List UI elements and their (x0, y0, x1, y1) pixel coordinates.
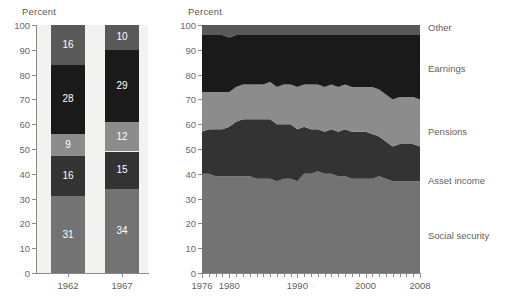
bar-segment-value: 10 (116, 32, 127, 42)
bar-y-tick-label: 100 (0, 20, 30, 31)
legend-item-asset-income[interactable]: Asset income (428, 175, 485, 186)
area-x-tick-label: 1990 (287, 280, 308, 291)
area-x-tick-mark (352, 274, 353, 277)
bar-segment-value: 15 (116, 165, 127, 175)
area-x-tick-mark (366, 274, 367, 278)
bar-y-tick-label: 60 (0, 119, 30, 130)
area-y-tick-label: 10 (160, 243, 196, 254)
bar-segment-value: 28 (62, 94, 73, 104)
area-y-tick-label: 90 (160, 44, 196, 55)
area-chart-y-axis-title: Percent (188, 6, 222, 17)
area-y-tick-label: 80 (160, 69, 196, 80)
area-x-tick-label: 2000 (355, 280, 376, 291)
area-x-tick-mark (284, 274, 285, 277)
bar-1967[interactable]: 3415122910 (105, 25, 139, 273)
bar-y-tick-label: 50 (0, 144, 30, 155)
area-x-tick-mark (263, 274, 264, 277)
area-y-tick-label: 30 (160, 193, 196, 204)
bar-chart-y-axis-title: Percent (22, 6, 56, 17)
chart-page: Percent 1009080706050403020100 311692816… (0, 0, 527, 307)
bar-plot-area: 3116928163415122910 (36, 25, 148, 273)
area-x-tick-mark (229, 274, 230, 278)
area-x-tick-mark (236, 274, 237, 277)
bar-segment-value: 16 (62, 171, 73, 181)
bar-x-tick-mark (68, 274, 69, 277)
area-x-tick-mark (257, 274, 258, 277)
bar-segment-other[interactable]: 10 (105, 25, 139, 50)
area-x-tick-mark (386, 274, 387, 277)
bar-chart-x-axis-line (36, 273, 149, 274)
area-x-tick-mark (311, 274, 312, 277)
bar-x-tick-label: 1962 (57, 280, 78, 291)
area-y-tick-label: 50 (160, 144, 196, 155)
area-x-tick-mark (270, 274, 271, 277)
bar-x-tick-label: 1967 (111, 280, 132, 291)
bar-y-tick-label: 20 (0, 218, 30, 229)
area-x-tick-label: 1976 (191, 280, 212, 291)
area-x-tick-mark (420, 274, 421, 278)
bar-x-tick-mark (122, 274, 123, 277)
area-y-tick-label: 70 (160, 94, 196, 105)
bar-y-tick-label: 90 (0, 44, 30, 55)
area-x-tick-mark (291, 274, 292, 277)
bar-1962[interactable]: 311692816 (51, 25, 85, 273)
area-x-tick-mark (372, 274, 373, 277)
bar-y-tick-label: 40 (0, 168, 30, 179)
area-x-tick-mark (209, 274, 210, 277)
area-x-tick-mark (338, 274, 339, 277)
area-chart-svg (202, 25, 420, 273)
bar-y-tick-label: 30 (0, 193, 30, 204)
legend-item-earnings[interactable]: Earnings (428, 63, 466, 74)
area-band-social-security[interactable] (202, 171, 420, 273)
area-y-tick-label: 20 (160, 218, 196, 229)
area-x-tick-mark (250, 274, 251, 277)
area-x-tick-mark (413, 274, 414, 277)
area-x-tick-mark (243, 274, 244, 277)
area-x-tick-mark (318, 274, 319, 277)
bar-segment-social-security[interactable]: 34 (105, 189, 139, 273)
bar-segment-asset-income[interactable]: 16 (51, 156, 85, 196)
area-x-tick-mark (379, 274, 380, 277)
bar-segment-asset-income[interactable]: 15 (105, 152, 139, 189)
bar-y-tick-label: 70 (0, 94, 30, 105)
bar-y-tick-label: 80 (0, 69, 30, 80)
bar-segment-value: 29 (116, 81, 127, 91)
area-x-tick-label: 1980 (219, 280, 240, 291)
area-x-tick-mark (304, 274, 305, 277)
area-x-tick-label: 2008 (409, 280, 430, 291)
area-x-tick-mark (331, 274, 332, 277)
area-x-tick-mark (202, 274, 203, 278)
bar-y-tick-label: 0 (0, 268, 30, 279)
bar-segment-value: 9 (65, 140, 71, 150)
legend-item-social-security[interactable]: Social security (428, 230, 489, 241)
bar-segment-value: 34 (116, 226, 127, 236)
area-x-tick-mark (406, 274, 407, 277)
area-y-tick-label: 100 (160, 20, 196, 31)
area-x-tick-mark (297, 274, 298, 278)
area-x-tick-mark (216, 274, 217, 277)
stacked-area-chart: Percent 1009080706050403020100 197619801… (160, 0, 527, 307)
bar-segment-value: 31 (62, 230, 73, 240)
legend-item-other[interactable]: Other (428, 22, 452, 33)
bar-segment-value: 16 (62, 40, 73, 50)
bar-segment-value: 12 (116, 132, 127, 142)
area-x-tick-mark (345, 274, 346, 277)
area-x-tick-mark (393, 274, 394, 277)
area-y-tick-label: 40 (160, 168, 196, 179)
bar-segment-earnings[interactable]: 29 (105, 50, 139, 122)
area-x-tick-mark (277, 274, 278, 277)
area-y-tick-label: 60 (160, 119, 196, 130)
bar-segment-other[interactable]: 16 (51, 25, 85, 65)
bar-segment-social-security[interactable]: 31 (51, 196, 85, 273)
bar-segment-pensions[interactable]: 12 (105, 122, 139, 152)
stacked-bar-chart: Percent 1009080706050403020100 311692816… (0, 0, 160, 307)
legend-item-pensions[interactable]: Pensions (428, 126, 467, 137)
area-plot-area (202, 25, 420, 273)
area-y-tick-label: 0 (160, 268, 196, 279)
area-x-tick-mark (359, 274, 360, 277)
area-x-tick-mark (325, 274, 326, 277)
area-x-tick-mark (222, 274, 223, 277)
bar-segment-earnings[interactable]: 28 (51, 65, 85, 134)
bar-segment-pensions[interactable]: 9 (51, 134, 85, 156)
area-x-tick-mark (400, 274, 401, 277)
